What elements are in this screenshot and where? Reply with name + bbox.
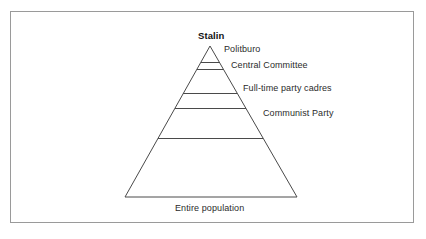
label-politburo: Politburo xyxy=(224,44,260,55)
label-stalin: Stalin xyxy=(198,30,224,41)
label-party-cadres: Full-time party cadres xyxy=(243,83,332,94)
label-communist-party: Communist Party xyxy=(263,108,334,119)
diagram-frame xyxy=(10,11,414,223)
diagram-page: Stalin Politburo Central Committee Full-… xyxy=(0,0,426,239)
label-entire-population: Entire population xyxy=(175,203,244,214)
label-central-committee: Central Committee xyxy=(231,60,308,71)
